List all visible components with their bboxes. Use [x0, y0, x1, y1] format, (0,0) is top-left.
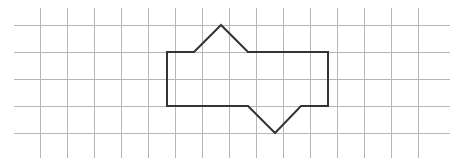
figure-canvas [0, 0, 462, 165]
grid-polygon-figure [0, 0, 462, 165]
